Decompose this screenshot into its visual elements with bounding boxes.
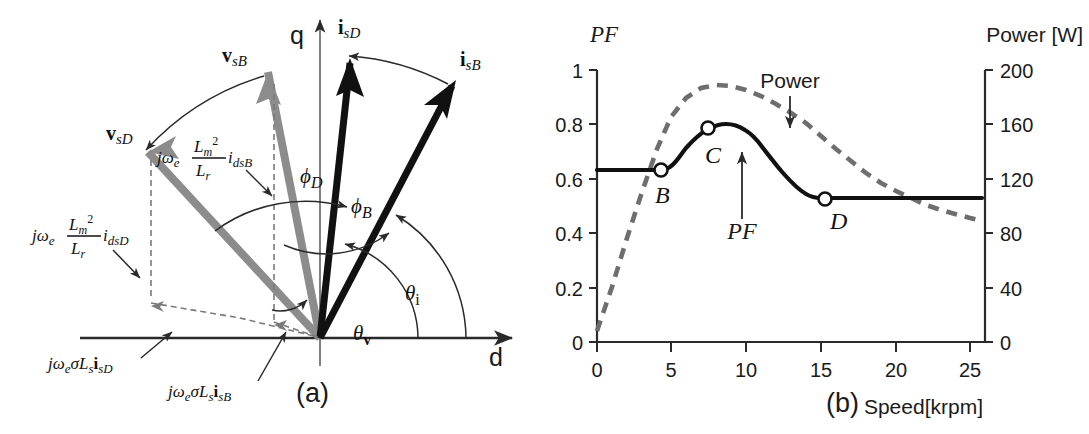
yticklabel-left-0_4: 0.4: [555, 223, 583, 245]
chart-left-axis-title: PF: [589, 22, 619, 47]
chart-right-ticklabels: 200 160 120 80 40 0: [1000, 60, 1033, 354]
chart-x-ticks: [597, 342, 970, 352]
panel-a-phasor-diagram: d q: [30, 16, 512, 408]
caption-panel-a: (a): [296, 378, 329, 408]
svg-text:Lr: Lr: [195, 161, 210, 183]
marker-label-D: D: [829, 208, 847, 234]
annotation-jwe-sigma-Ls-isB: jωeσLsisB: [166, 332, 286, 404]
chart-right-ticks: [985, 70, 993, 342]
yticklabel-right-120: 120: [1000, 169, 1033, 191]
xticklabel-5: 5: [665, 359, 676, 381]
annotation-jwe-Lm2-Lr-idsD: jωe Lm2 Lr idsD: [30, 212, 140, 278]
yticklabel-left-0_2: 0.2: [555, 278, 583, 300]
xticklabel-0: 0: [591, 359, 602, 381]
yticklabel-left-0: 0: [572, 332, 583, 354]
svg-text:idsB: idsB: [228, 148, 252, 170]
label-phi-B: ϕB: [351, 194, 372, 221]
xticklabel-15: 15: [810, 359, 832, 381]
xticklabel-10: 10: [735, 359, 757, 381]
chart-right-axis-title: Power [W]: [986, 23, 1083, 46]
yticklabel-left-1: 1: [572, 60, 583, 82]
leader-arrow-idsD: [113, 250, 140, 278]
fraction-Lm2-over-Lr-B: Lm2 Lr: [192, 134, 226, 183]
label-v-sD: vsD: [106, 122, 133, 147]
annotation-power: Power: [760, 69, 820, 128]
construction-arrowheads: [151, 301, 287, 331]
label-theta-v: θv: [353, 321, 371, 348]
fraction-Lm2-over-Lr-D: Lm2 Lr: [67, 212, 101, 261]
yticklabel-left-0_6: 0.6: [555, 169, 583, 191]
svg-text:Lm2: Lm2: [193, 134, 218, 159]
svg-text:Lr: Lr: [70, 239, 85, 261]
label-theta-i: θi: [405, 281, 420, 308]
annotation-power-label: Power: [760, 69, 820, 92]
chart-x-ticklabels: 0 5 10 15 20 25: [591, 359, 981, 381]
label-v-sB: vsB: [222, 44, 247, 69]
yticklabel-right-200: 200: [1000, 60, 1033, 82]
marker-B: [655, 164, 668, 177]
yticklabel-right-0: 0: [1000, 332, 1011, 354]
panel-b-chart: 1 0.8 0.6 0.4 0.2 0 200 160 120 80 40 0: [555, 22, 1083, 418]
figure-container: d q: [0, 0, 1089, 434]
svg-text:idsD: idsD: [103, 226, 129, 248]
leader-arrow-isB: [258, 332, 286, 381]
marker-D: [819, 193, 832, 206]
caption-panel-b: (b): [826, 388, 859, 418]
leader-arrow-isD: [141, 332, 172, 358]
marker-label-B: B: [655, 182, 670, 208]
chart-left-ticklabels: 1 0.8 0.6 0.4 0.2 0: [555, 60, 583, 354]
marker-label-C: C: [705, 142, 722, 168]
svg-text:Lm2: Lm2: [68, 212, 93, 237]
xticklabel-25: 25: [959, 359, 981, 381]
yticklabel-right-40: 40: [1000, 278, 1022, 300]
yticklabel-right-160: 160: [1000, 114, 1033, 136]
leader-arrow-idsB: [246, 170, 272, 196]
chart-left-ticks: [589, 70, 597, 342]
vector-i-sB: [320, 80, 456, 338]
d-axis-label: d: [489, 343, 503, 371]
label-i-sB: isB: [460, 48, 481, 73]
annotation-pf: PF: [726, 152, 757, 244]
yticklabel-left-0_8: 0.8: [555, 114, 583, 136]
svg-text:jωeσLsisB: jωeσLsisB: [166, 382, 231, 404]
label-i-sD: isD: [338, 16, 360, 41]
svg-text:jωeσLsisD: jωeσLsisD: [46, 354, 113, 376]
annotation-pf-label: PF: [726, 218, 757, 244]
marker-C: [702, 122, 715, 135]
svg-text:jωe: jωe: [155, 148, 180, 170]
figure-svg: d q: [0, 0, 1089, 434]
yticklabel-right-80: 80: [1000, 223, 1022, 245]
svg-text:jωe: jωe: [30, 226, 55, 248]
q-axis-label: q: [290, 21, 304, 49]
xticklabel-20: 20: [885, 359, 907, 381]
chart-x-axis-title: Speed[krpm]: [864, 395, 983, 418]
